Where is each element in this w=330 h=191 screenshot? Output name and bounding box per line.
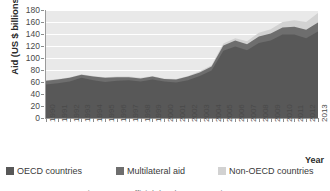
y-tick-label: 120 xyxy=(26,42,40,51)
figure-caption-text: Figure 10.5 Official development assista… xyxy=(83,190,248,191)
y-tick-label: 60 xyxy=(31,78,40,87)
legend-label: OECD countries xyxy=(17,166,82,176)
x-tick-label: 2013 xyxy=(321,104,329,122)
y-tick-mark xyxy=(41,82,44,83)
y-tick-label: 140 xyxy=(26,30,40,39)
y-tick-label: 80 xyxy=(31,66,40,75)
y-tick-mark xyxy=(41,70,44,71)
legend-swatch-icon xyxy=(218,167,226,175)
x-tick-label: 1990 xyxy=(49,104,57,122)
x-tick-label: 1998 xyxy=(144,104,152,122)
x-tick-label: 2010 xyxy=(286,104,294,122)
y-tick-mark xyxy=(41,34,44,35)
y-axis-line xyxy=(45,10,46,119)
x-tick-label: 1997 xyxy=(132,104,140,122)
legend-swatch-icon xyxy=(6,167,14,175)
x-tick-label: 1999 xyxy=(155,104,163,122)
figure-caption: Figure 10.5 Official development assista… xyxy=(0,183,330,191)
x-axis-labels: 1990199119921993199419951996199719981999… xyxy=(0,120,330,156)
x-tick-label: 2012 xyxy=(309,104,317,122)
chart-figure: Aid (US $ billions) 02040608010012014016… xyxy=(0,0,330,191)
x-tick-label: 2001 xyxy=(179,104,187,122)
x-tick-label: 2011 xyxy=(297,105,305,122)
y-tick-mark xyxy=(41,46,44,47)
y-tick-mark xyxy=(41,118,44,119)
y-tick-label: 100 xyxy=(26,54,40,63)
y-tick-label: 180 xyxy=(26,6,40,15)
x-tick-label: 2003 xyxy=(203,104,211,122)
legend-label: Non-OECD countries xyxy=(229,166,314,176)
x-tick-label: 2005 xyxy=(226,104,234,122)
x-tick-label: 2007 xyxy=(250,104,258,122)
y-tick-label: 40 xyxy=(31,90,40,99)
area-chart-svg xyxy=(46,10,318,118)
plot-area xyxy=(46,10,318,118)
y-tick-mark xyxy=(41,94,44,95)
y-axis-ticks: 020406080100120140160180 xyxy=(18,0,44,128)
series-areas xyxy=(46,13,318,118)
x-tick-label: 2006 xyxy=(238,104,246,122)
x-tick-label: 2002 xyxy=(191,104,199,122)
y-tick-label: 160 xyxy=(26,18,40,27)
x-tick-label: 2004 xyxy=(215,104,223,122)
legend-item[interactable]: OECD countries xyxy=(6,164,82,178)
x-tick-label: 2000 xyxy=(167,104,175,122)
legend-swatch-icon xyxy=(116,167,124,175)
x-tick-label: 2008 xyxy=(262,104,270,122)
x-tick-label: 1994 xyxy=(96,104,104,122)
y-tick-label: 20 xyxy=(31,102,40,111)
x-tick-label: 1992 xyxy=(73,104,81,122)
chart-legend: OECD countriesMultilateral aidNon-OECD c… xyxy=(0,164,330,178)
y-tick-mark xyxy=(41,106,44,107)
y-tick-mark xyxy=(41,22,44,23)
y-tick-mark xyxy=(41,58,44,59)
legend-item[interactable]: Non-OECD countries xyxy=(218,164,314,178)
y-tick-mark xyxy=(41,10,44,11)
legend-label: Multilateral aid xyxy=(127,166,185,176)
legend-item[interactable]: Multilateral aid xyxy=(116,164,185,178)
x-tick-label: 1991 xyxy=(61,104,69,122)
x-tick-label: 1996 xyxy=(120,104,128,122)
x-tick-label: 2009 xyxy=(274,104,282,122)
x-tick-label: 1993 xyxy=(84,104,92,122)
x-tick-label: 1995 xyxy=(108,104,116,122)
